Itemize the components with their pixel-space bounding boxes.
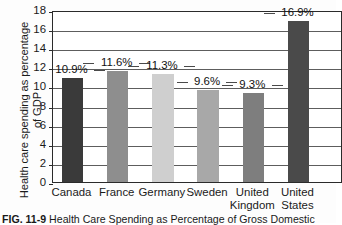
bar-united-states [288, 21, 310, 182]
bar-france [107, 71, 129, 182]
x-axis-tick-label-france: France [99, 186, 134, 199]
y-axis-tick-label: 14 [24, 44, 46, 55]
y-axis-tick-mark [49, 184, 53, 185]
y-axis-tick-mark [49, 50, 53, 51]
leader-line [83, 63, 94, 64]
y-axis-tick-mark [49, 88, 53, 89]
data-label-germany: 11.3% [146, 60, 177, 71]
y-axis-tick-label: 18 [24, 5, 46, 16]
y-axis-tick-label: 10 [24, 82, 46, 93]
y-axis-tick-label: 4 [24, 139, 46, 150]
leader-line [128, 66, 139, 67]
data-label-united-kingdom: 9.3% [239, 79, 265, 90]
data-label-sweden: 9.6% [194, 76, 220, 87]
x-axis-tick-label-germany: Germany [138, 186, 185, 199]
data-label-canada: 10.9% [55, 63, 87, 74]
y-axis-tick-label: 8 [24, 101, 46, 112]
leader-line [264, 13, 275, 14]
x-axis-tick-label-united-kingdom: United Kingdom [230, 186, 275, 211]
y-axis-tick-label: 2 [24, 158, 46, 169]
y-axis-tick-mark [49, 108, 53, 109]
plot-area [52, 11, 342, 183]
data-label-united-states: 16.9% [281, 6, 313, 17]
y-axis-tick-mark [49, 12, 53, 13]
y-axis-tick-label: 12 [24, 63, 46, 74]
x-axis-tick-label-united-states: United States [281, 186, 314, 211]
bar-united-kingdom [243, 93, 265, 182]
y-axis-tick-mark [49, 127, 53, 128]
x-axis-tick-label-sweden: Sweden [187, 186, 228, 199]
leader-line [94, 70, 105, 71]
x-axis-tick-label-canada: Canada [52, 186, 92, 199]
figure-caption-text: Health Care Spending as Percentage of Gr… [46, 213, 315, 225]
y-axis-tick-labels: 181614121086420 [24, 0, 46, 223]
y-axis-tick-label: 16 [24, 24, 46, 35]
leader-line [177, 82, 188, 83]
leader-line [222, 85, 233, 86]
y-axis-tick-label: 0 [24, 177, 46, 188]
bar-sweden [197, 90, 219, 182]
figure-number: FIG. 11-9 [2, 213, 46, 225]
y-axis-tick-label: 6 [24, 120, 46, 131]
y-axis-tick-mark [49, 69, 53, 70]
figure-caption: FIG. 11-9 Health Care Spending as Percen… [2, 213, 342, 225]
leader-line [184, 66, 195, 67]
y-axis-tick-mark [49, 31, 53, 32]
leader-line [272, 85, 283, 86]
bar-canada [62, 78, 84, 182]
bar-germany [152, 74, 174, 182]
y-axis-tick-mark [49, 165, 53, 166]
leader-line [226, 82, 237, 83]
y-axis-tick-mark [49, 146, 53, 147]
